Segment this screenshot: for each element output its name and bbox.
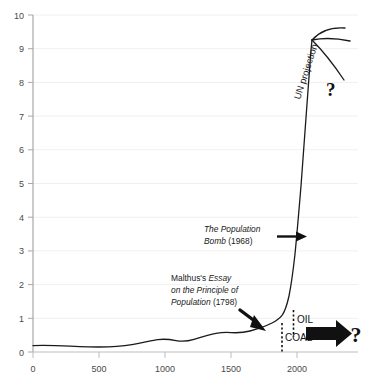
malthus-author-part: Malthus's bbox=[171, 273, 208, 283]
malthus-line1: Malthus's Essay bbox=[171, 273, 232, 283]
y-tick-label: 5 bbox=[19, 179, 24, 189]
y-tick-label: 8 bbox=[19, 78, 24, 88]
malthus-year-part: (1798) bbox=[211, 297, 238, 307]
x-tick-label: 1500 bbox=[221, 364, 241, 374]
x-tick-label: 500 bbox=[91, 364, 106, 374]
population-growth-chart: 10 9 8 7 6 5 4 3 2 1 0 0 500 1000 1500 2… bbox=[0, 0, 368, 385]
y-tick-label: 4 bbox=[19, 213, 24, 223]
y-tick-label: 6 bbox=[19, 145, 24, 155]
malthus-line2: on the Principle of bbox=[171, 285, 240, 295]
y-tick-label: 10 bbox=[14, 11, 24, 21]
chart-canvas: 10 9 8 7 6 5 4 3 2 1 0 0 500 1000 1500 2… bbox=[0, 0, 368, 385]
population-bomb-line2: Bomb (1968) bbox=[204, 236, 253, 246]
population-bomb-title-part: Bomb bbox=[204, 236, 226, 246]
y-tick-label: 9 bbox=[19, 44, 24, 54]
malthus-title-part1: Essay bbox=[208, 273, 232, 283]
y-tick-label: 0 bbox=[19, 348, 24, 358]
future-question-mark: ? bbox=[351, 322, 362, 347]
x-tick-label: 1000 bbox=[155, 364, 175, 374]
population-bomb-line1: The Population bbox=[204, 224, 261, 234]
projection-question-mark: ? bbox=[326, 79, 336, 100]
y-tick-label: 3 bbox=[19, 246, 24, 256]
x-tick-label: 2000 bbox=[287, 364, 307, 374]
y-tick-label: 2 bbox=[19, 280, 24, 290]
y-tick-label: 7 bbox=[19, 112, 24, 122]
x-tick-label: 0 bbox=[30, 364, 35, 374]
malthus-line3: Population (1798) bbox=[171, 297, 237, 307]
malthus-title-part2: Population bbox=[171, 297, 211, 307]
oil-label: OIL bbox=[297, 314, 314, 325]
y-tick-label: 1 bbox=[19, 314, 24, 324]
population-bomb-year-part: (1968) bbox=[226, 236, 253, 246]
